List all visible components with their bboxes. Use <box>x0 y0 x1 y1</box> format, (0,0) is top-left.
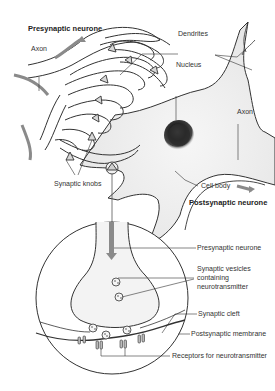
label-dendrites: Dendrites <box>178 30 208 38</box>
label-axon-right: Axon <box>237 108 253 116</box>
label-receptors: Receptors for neurotransmitter <box>172 352 267 360</box>
label-synaptic-knobs: Synaptic knobs <box>54 180 101 188</box>
label-synaptic-vesicles-1: Synaptic vesicles <box>197 265 251 273</box>
label-axon-left: Axon <box>31 45 47 53</box>
label-synaptic-vesicles-2: containing <box>197 274 229 282</box>
label-nucleus: Nucleus <box>176 61 201 69</box>
label-presynaptic-neurone-inset: Presynaptic neurone <box>197 244 261 252</box>
label-synaptic-cleft: Synaptic cleft <box>198 310 240 318</box>
synapse-inset <box>36 222 188 374</box>
synapse-diagram: Presynaptic neurone Axon Dendrites Nucle… <box>0 0 275 391</box>
label-postsynaptic-neurone: Postsynaptic neurone <box>189 199 267 207</box>
label-presynaptic-neurone: Presynaptic neurone <box>28 25 102 33</box>
label-synaptic-vesicles-3: neurotransmitter <box>197 283 248 291</box>
label-postsynaptic-membrane: Postsynaptic membrane <box>191 330 266 338</box>
label-cell-body: Cell body <box>201 182 230 190</box>
